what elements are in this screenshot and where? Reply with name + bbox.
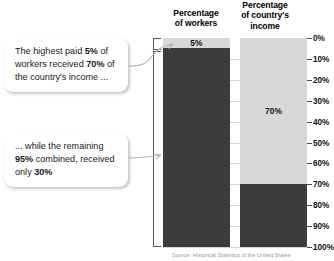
gridline [163, 247, 307, 248]
axis-tick-label: 10% [313, 54, 329, 63]
axis-tick [307, 101, 312, 102]
axis-tick-label: 0% [313, 34, 325, 43]
axis-tick-label: 40% [313, 117, 329, 126]
bar-percentage-of-workers: 5% [163, 38, 230, 247]
axis-tick-label: 60% [313, 159, 329, 168]
callout-run: ... while the remaining [15, 141, 103, 151]
bar-segment-workers-bottom [163, 48, 230, 247]
axis-tick-label: 90% [313, 222, 329, 231]
axis-tick [307, 122, 312, 123]
callout-highest-paid: The highest paid 5% of workers received … [4, 38, 128, 92]
source-note: Source: Historical Statistics of the Uni… [172, 252, 330, 259]
axis-tick-label: 30% [313, 96, 329, 105]
axis-tick [307, 59, 312, 60]
leader-line-callout-two [128, 150, 168, 166]
axis-tick [307, 80, 312, 81]
callout-run: The highest paid [15, 46, 85, 56]
axis-tick-label: 100% [313, 243, 334, 252]
bar-percentage-of-income: 70% [240, 38, 307, 247]
bar-label-income-top: 70% [240, 106, 307, 116]
y-axis-percentage: 0%10%20%30%40%50%60%70%80%90%100% [307, 38, 330, 247]
axis-tick-label: 50% [313, 138, 329, 147]
callout-emphasis: 5% [85, 46, 98, 56]
callout-emphasis: 30% [34, 167, 52, 177]
bracket-bottom-ninetyfive-percent [153, 51, 161, 247]
axis-tick-label: 70% [313, 180, 329, 189]
callout-remaining: ... while the remaining 95% combined, re… [4, 133, 128, 187]
callout-emphasis: 70% [86, 59, 104, 69]
axis-tick-label: 20% [313, 75, 329, 84]
axis-tick-label: 80% [313, 201, 329, 210]
axis-tick [307, 163, 312, 164]
bar-label-workers-top: 5% [163, 38, 230, 48]
axis-tick [307, 38, 312, 39]
axis-tick [307, 143, 312, 144]
axis-tick [307, 184, 312, 185]
bracket-top-five-percent [153, 38, 161, 50]
callout-highest-paid-text: The highest paid 5% of workers received … [15, 45, 118, 85]
bar-segment-income-bottom [240, 184, 307, 247]
callout-remaining-text: ... while the remaining 95% combined, re… [15, 140, 118, 180]
axis-tick [307, 247, 312, 248]
axis-tick [307, 205, 312, 206]
callout-emphasis: 95% [15, 154, 33, 164]
axis-tick [307, 226, 312, 227]
